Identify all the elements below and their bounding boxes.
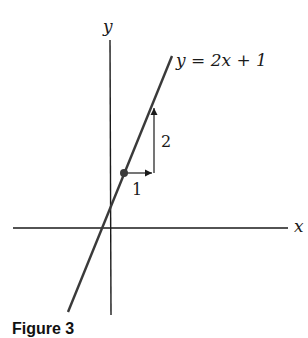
function-line — [68, 56, 172, 312]
figure-caption: Figure 3 — [12, 320, 74, 338]
point-marker — [120, 169, 128, 177]
rise-label: 2 — [161, 132, 171, 151]
run-label: 1 — [132, 180, 142, 199]
y-axis — [110, 40, 111, 315]
x-axis-label: x — [294, 216, 304, 236]
line-equation-label: y = 2x + 1 — [175, 50, 267, 70]
y-axis-label: y — [102, 16, 113, 36]
